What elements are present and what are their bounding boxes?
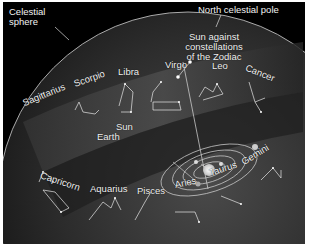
north-pole-label: North celestial pole: [198, 5, 279, 15]
diagram-graphics: [3, 2, 305, 244]
constellation-label-virgo: Virgo: [165, 60, 187, 70]
sphere-pointer: [55, 27, 69, 40]
constellation-label-pisces: Pisces: [137, 186, 165, 196]
constellation-label-aquarius: Aquarius: [90, 184, 128, 194]
celestial-sphere-diagram: Celestial sphere North celestial pole Su…: [3, 2, 305, 244]
constellation-label-leo: Leo: [212, 61, 228, 71]
celestial-sphere-label: Celestial sphere: [9, 7, 45, 27]
earth-label: Earth: [97, 132, 120, 142]
sun-against-zodiac-label: Sun against constellations of the Zodiac: [179, 32, 249, 62]
constellation-label-libra: Libra: [118, 67, 139, 77]
